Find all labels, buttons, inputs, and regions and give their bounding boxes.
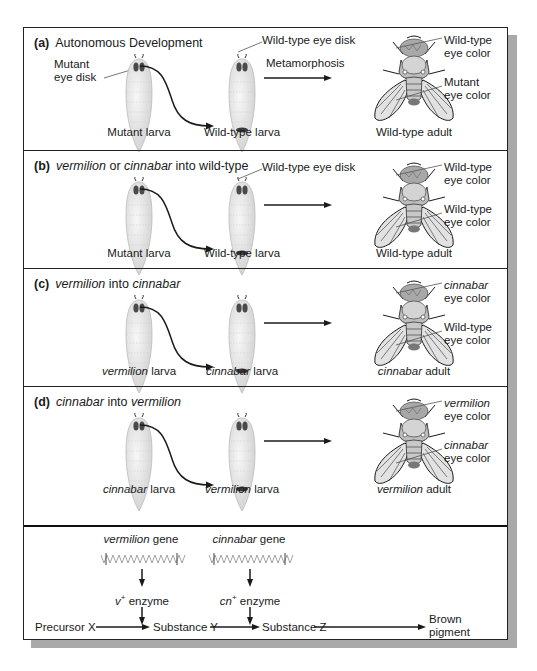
- host-larva-icon: [225, 54, 259, 154]
- text-part: larva: [252, 126, 280, 138]
- host-larva-label: Wild-type larva: [192, 126, 292, 139]
- donor-larva-label: cinnabar larva: [89, 483, 189, 496]
- step-arrow-3: [314, 623, 428, 631]
- text-part: cinnabar: [124, 159, 172, 173]
- gene-name: vermilion: [104, 533, 150, 545]
- panel-d: (d)cinnabar into vermilion: [24, 386, 507, 525]
- host-eye-disk-label: Wild-type eye disk: [262, 34, 355, 47]
- panel-title: (b)vermilion or cinnabar into wild-type: [34, 160, 248, 173]
- leader-lines: [396, 395, 456, 475]
- panel-a: (a)Autonomous DevelopmentMutanteye disk: [24, 28, 507, 150]
- panel-pathway: vermilion genecinnabar gene v+ enzymecn+…: [24, 525, 507, 641]
- text-part: Mutant: [107, 126, 142, 138]
- enzyme-label: v+ enzyme: [87, 591, 197, 608]
- leader-line: [238, 40, 268, 60]
- text-part: larva: [148, 365, 176, 377]
- text-part: cinnabar: [56, 395, 104, 409]
- text-part: vermilion: [102, 365, 148, 377]
- text-part: into: [104, 395, 131, 409]
- enzyme-suffix: enzyme: [125, 595, 168, 607]
- vermilion-gene-dna-icon: [101, 553, 183, 565]
- host-larva-icon: [225, 177, 259, 277]
- gene-suffix: gene: [257, 533, 286, 545]
- host-larva-label: cinnabar larva: [192, 365, 292, 378]
- text-part: adult: [423, 483, 451, 495]
- metamorphosis-label: Metamorphosis: [266, 57, 345, 70]
- text-part: vermilion: [131, 395, 181, 409]
- text-part: vermilion: [55, 277, 105, 291]
- leader-lines: [396, 159, 456, 239]
- text-part: cinnabar: [378, 365, 422, 377]
- text-part: Wild-type: [204, 126, 252, 138]
- text-part: cinnabar: [103, 483, 147, 495]
- text-part: larva: [147, 483, 175, 495]
- gene-label: cinnabar gene: [194, 533, 304, 546]
- gene-name: cinnabar: [213, 533, 257, 545]
- metamorphosis-arrow: [264, 74, 334, 82]
- text-part: larva: [143, 126, 171, 138]
- enzyme-suffix: enzyme: [237, 595, 280, 607]
- pathway-step-2: Substance Y: [153, 621, 218, 634]
- panel-letter: (d): [34, 395, 50, 409]
- text-part: Wild-type: [204, 247, 252, 259]
- host-larva-label: Wild-type larva: [192, 247, 292, 260]
- metamorphosis-arrow: [264, 201, 334, 209]
- leader-lines: [396, 277, 456, 357]
- text-part: into wild-type: [172, 159, 248, 173]
- text-part: into: [105, 277, 132, 291]
- pathway-step-1: Precursor X: [35, 621, 96, 634]
- host-eye-disk-label: Wild-type eye disk: [262, 161, 355, 174]
- donor-larva-label: Mutant larva: [89, 126, 189, 139]
- enzyme-label: cn+ enzyme: [195, 591, 305, 608]
- panel-letter: (a): [34, 36, 49, 50]
- text-part: vermilion: [377, 483, 423, 495]
- brown-pigment-label: Brownpigment: [429, 613, 470, 639]
- adult-label: cinnabar adult: [354, 365, 474, 378]
- leader-line: [238, 167, 268, 187]
- text-part: Wild-type: [376, 247, 424, 259]
- gene-label: vermilion gene: [86, 533, 196, 546]
- adult-label: Wild-type adult: [354, 247, 474, 260]
- text-part: cinnabar: [206, 365, 250, 377]
- adult-label: Wild-type adult: [354, 126, 474, 139]
- adult-label: vermilion adult: [354, 483, 474, 496]
- panel-c: (c)vermilion into cinnabar: [24, 268, 507, 386]
- host-larva-icon: [225, 413, 259, 513]
- gene-suffix: gene: [150, 533, 179, 545]
- panel-letter: (c): [34, 277, 49, 291]
- figure-frame: (a)Autonomous DevelopmentMutanteye disk: [23, 27, 508, 640]
- enzyme-symbol: cn: [220, 595, 232, 607]
- text-part: adult: [424, 247, 452, 259]
- host-larva-label: vermilion larva: [192, 483, 292, 496]
- label-line-1: Mutant: [54, 58, 96, 71]
- metamorphosis-arrow: [264, 437, 334, 445]
- panel-title: (a)Autonomous Development: [34, 37, 203, 50]
- text-part: larva: [250, 365, 278, 377]
- step-arrow-1: [96, 623, 152, 631]
- text-part: vermilion: [56, 159, 106, 173]
- cinnabar-gene-dna-icon: [209, 553, 291, 565]
- step-arrow-2: [210, 623, 262, 631]
- label-line-2: eye disk: [54, 71, 96, 84]
- gene1-to-enzyme-arrow: [138, 569, 146, 589]
- text-part: or: [106, 159, 124, 173]
- metamorphosis-arrow: [264, 319, 334, 327]
- leader-lines: [396, 32, 456, 112]
- gene2-to-enzyme-arrow: [246, 569, 254, 589]
- panel-b: (b)vermilion or cinnabar into wild-type: [24, 150, 507, 268]
- donor-larva-label: vermilion larva: [89, 365, 189, 378]
- panel-letter: (b): [34, 159, 50, 173]
- text-part: adult: [422, 365, 450, 377]
- text-part: larva: [252, 247, 280, 259]
- product-line-1: Brown: [429, 613, 470, 626]
- text-part: larva: [251, 483, 279, 495]
- panel-title: (c)vermilion into cinnabar: [34, 278, 180, 291]
- product-line-2: pigment: [429, 626, 470, 639]
- host-larva-icon: [225, 295, 259, 395]
- text-part: Autonomous Development: [55, 36, 202, 50]
- text-part: adult: [424, 126, 452, 138]
- panel-title: (d)cinnabar into vermilion: [34, 396, 181, 409]
- donor-larva-label: Mutant larva: [89, 247, 189, 260]
- text-part: larva: [143, 247, 171, 259]
- donor-eye-disk-label: Mutanteye disk: [54, 58, 96, 84]
